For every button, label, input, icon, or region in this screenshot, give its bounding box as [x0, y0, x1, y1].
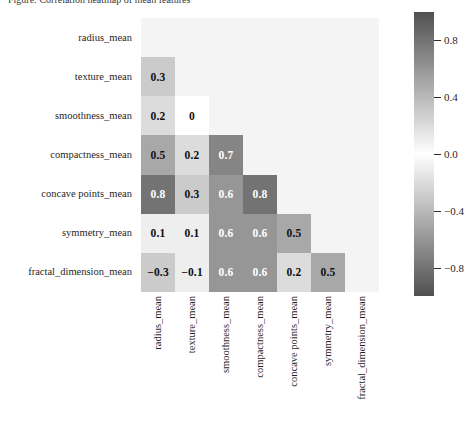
heatmap-cell: 0.6 — [209, 214, 243, 253]
colorbar[interactable]: 0.80.40.0−0.4−0.8 — [414, 12, 466, 302]
y-axis-tick-label: texture_mean — [75, 71, 132, 83]
heatmap-cell: 0 — [175, 96, 209, 135]
x-axis-tick-label: smoothness_mean — [219, 296, 233, 428]
heatmap-cell: 0.8 — [243, 175, 277, 214]
heatmap-cell: 0.7 — [209, 135, 243, 174]
colorbar-tick-mark — [434, 154, 441, 155]
x-axis-labels: radius_meantexture_meansmoothness_meanco… — [141, 296, 379, 428]
heatmap-cell: 0.5 — [277, 214, 311, 253]
colorbar-tick-label: 0.8 — [444, 35, 458, 46]
y-axis-tick-label: symmetry_mean — [62, 227, 132, 239]
colorbar-tick-mark — [434, 97, 441, 98]
x-axis-tick-label: radius_mean — [151, 296, 165, 428]
heatmap-cell: −0.1 — [175, 253, 209, 292]
figure-caption: Figure: Correlation heatmap of mean feat… — [8, 0, 258, 5]
colorbar-gradient — [414, 12, 434, 296]
heatmap-cell: 0.2 — [175, 135, 209, 174]
colorbar-tick-mark — [434, 268, 441, 269]
heatmap-cell: 0.6 — [209, 253, 243, 292]
heatmap-cell: 0.2 — [141, 96, 175, 135]
heatmap-cell: 0.1 — [175, 214, 209, 253]
x-axis-tick-label: concave points_mean — [287, 296, 301, 428]
colorbar-tick-mark — [434, 40, 441, 41]
colorbar-tick-label: 0.4 — [444, 92, 458, 103]
heatmap-cell: 0.8 — [141, 175, 175, 214]
heatmap-cell: 0.2 — [277, 253, 311, 292]
x-axis-tick-label: fractal_dimension_mean — [355, 296, 369, 428]
heatmap-cell: 0.6 — [209, 175, 243, 214]
y-axis-tick-label: smoothness_mean — [55, 110, 132, 122]
heatmap-cell: −0.3 — [141, 253, 175, 292]
y-axis-tick-label: concave points_mean — [41, 188, 132, 200]
heatmap-plot-area: 0.30.200.50.20.70.80.30.60.80.10.10.60.6… — [141, 18, 379, 292]
y-axis-tick-label: compactness_mean — [50, 149, 132, 161]
heatmap-cell: 0.5 — [141, 135, 175, 174]
colorbar-tick-label: −0.8 — [444, 262, 464, 273]
y-axis-tick-label: fractal_dimension_mean — [28, 266, 132, 278]
x-axis-tick-label: texture_mean — [185, 296, 199, 428]
heatmap-cell: 0.5 — [311, 253, 345, 292]
colorbar-tick-label: 0.0 — [444, 149, 458, 160]
x-axis-tick-label: compactness_mean — [253, 296, 267, 428]
x-axis-tick-label: symmetry_mean — [321, 296, 335, 428]
heatmap-cell: 0.6 — [243, 253, 277, 292]
correlation-heatmap-figure: Figure: Correlation heatmap of mean feat… — [0, 0, 466, 428]
heatmap-cell: 0.1 — [141, 214, 175, 253]
y-axis-tick-label: radius_mean — [78, 32, 132, 44]
y-axis-labels: radius_meantexture_meansmoothness_meanco… — [0, 18, 136, 292]
heatmap-cell: 0.3 — [141, 57, 175, 96]
heatmap-cell: 0.6 — [243, 214, 277, 253]
heatmap-cell: 0.3 — [175, 175, 209, 214]
colorbar-tick-mark — [434, 211, 441, 212]
colorbar-tick-label: −0.4 — [444, 205, 464, 216]
